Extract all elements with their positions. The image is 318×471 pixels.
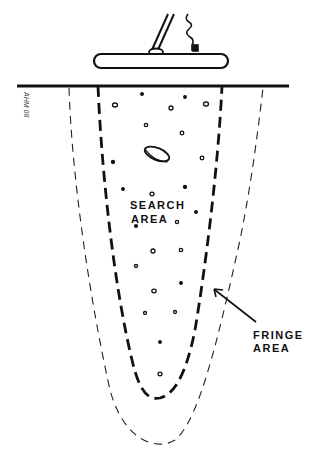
search-area-label-line1: SEARCH (130, 199, 185, 211)
search-area-label-line2: AREA (131, 213, 168, 225)
detector-shaft (151, 14, 174, 52)
coin-icon (143, 144, 172, 165)
search-area-boundary (98, 86, 222, 398)
artist-signature: AHM 08 (23, 91, 30, 117)
search-coil (94, 54, 228, 68)
fringe-arrow-icon (214, 289, 256, 322)
coil-cable-icon (186, 14, 198, 51)
search-area-diagram: AHM 08 SEARCH AREA (0, 0, 318, 471)
fringe-area-boundary (69, 88, 263, 444)
fringe-area-label-line2: AREA (253, 342, 290, 354)
fringe-area-label-line1: FRINGE (253, 329, 304, 341)
soil-particles (112, 93, 209, 376)
